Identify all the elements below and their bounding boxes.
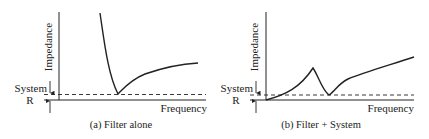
ref-label-system: System [221, 82, 254, 94]
y-axis-label: Impedance [248, 23, 260, 71]
ref-label-r: R [232, 94, 240, 106]
x-axis-label: Frequency [368, 102, 415, 114]
ref-label-system: System [15, 82, 48, 94]
y-axis-label: Impedance [42, 23, 54, 71]
panel-b-filter-plus-system: Impedance Frequency System R (b) Filter … [221, 12, 415, 131]
impedance-diagram: Impedance Frequency System R (a) Filter … [0, 0, 429, 139]
panel-caption: (a) Filter alone [90, 119, 153, 131]
impedance-curve [100, 13, 198, 94]
impedance-curve [266, 57, 414, 100]
x-axis-label: Frequency [161, 102, 208, 114]
panel-caption: (b) Filter + System [281, 119, 361, 131]
panel-a-filter-alone: Impedance Frequency System R (a) Filter … [15, 12, 208, 131]
ref-label-r: R [26, 94, 34, 106]
